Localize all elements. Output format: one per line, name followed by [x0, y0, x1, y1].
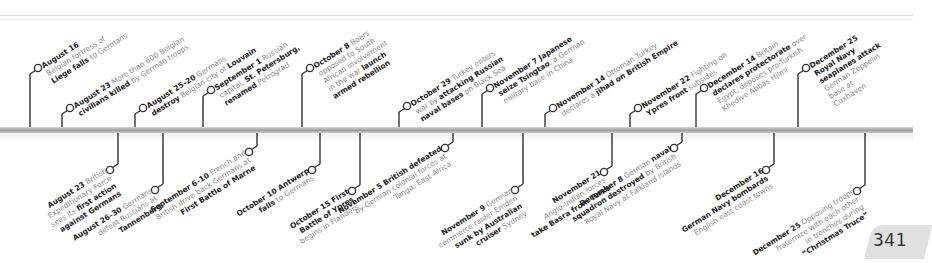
event-marker-circle	[139, 104, 146, 111]
event-marker-circle	[549, 104, 556, 111]
stem-above-4	[300, 64, 314, 132]
axis-shadow	[0, 133, 913, 143]
stem-above-0	[28, 64, 42, 132]
event-marker-circle	[634, 104, 641, 111]
stem-above-10	[796, 64, 810, 132]
event-marker-circle	[306, 64, 313, 71]
page-number: 341	[873, 230, 907, 250]
event-marker-circle	[700, 84, 707, 91]
event-marker-circle	[802, 64, 809, 71]
event-marker-circle	[66, 104, 73, 111]
stem-above-3	[201, 86, 215, 132]
stem-above-9	[694, 84, 708, 132]
event-marker-circle	[486, 84, 493, 91]
event-marker-circle	[403, 102, 410, 109]
event-marker-circle	[34, 64, 41, 71]
event-marker-circle	[207, 86, 214, 93]
timeline-axis	[0, 127, 913, 133]
stem-above-6	[480, 84, 494, 132]
